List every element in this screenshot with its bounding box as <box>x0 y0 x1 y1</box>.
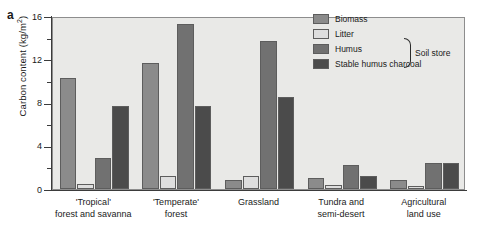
y-tick-label: 16 <box>18 13 42 22</box>
x-axis-line <box>44 190 467 191</box>
legend-swatch <box>313 14 329 24</box>
brace-icon <box>404 38 411 68</box>
y-tick-major <box>44 147 52 148</box>
y-tick-major <box>44 17 52 18</box>
legend-swatch <box>313 29 329 39</box>
bar <box>308 178 325 189</box>
bar <box>443 163 460 189</box>
category-label-line1: Agricultural <box>370 197 477 209</box>
y-tick-label: 0 <box>18 186 42 195</box>
bar <box>260 41 277 189</box>
bar <box>142 63 159 190</box>
soil-store-label: Soil store <box>415 49 450 58</box>
legend-swatch <box>313 44 329 54</box>
y-tick-label: 4 <box>18 142 42 151</box>
y-tick-major <box>44 104 52 105</box>
legend-label: Litter <box>335 30 354 39</box>
category-label-line2: forest <box>123 209 230 221</box>
bar <box>343 165 360 189</box>
y-axis-title: Carbon content (kg/m2) <box>16 0 28 146</box>
y-tick-minor <box>47 168 52 169</box>
legend-label: Biomass <box>335 15 368 24</box>
bar <box>60 78 77 189</box>
panel-label: a <box>7 9 14 21</box>
bar <box>160 176 177 189</box>
bar <box>225 180 242 189</box>
y-tick-label: 8 <box>18 99 42 108</box>
category-label-line2: land use <box>370 209 477 221</box>
legend-item: Biomass <box>313 12 421 26</box>
soil-store-bracket: Soil store <box>404 38 450 68</box>
legend-label: Humus <box>335 45 362 54</box>
bar <box>278 97 295 189</box>
legend-swatch <box>313 59 329 69</box>
bar <box>243 176 260 189</box>
bar <box>95 158 112 189</box>
category-label: Agriculturalland use <box>370 197 477 220</box>
y-tick-major <box>44 190 52 191</box>
y-tick-major <box>44 60 52 61</box>
bar <box>425 163 442 189</box>
y-tick-label: 12 <box>18 56 42 65</box>
bar <box>408 186 425 189</box>
y-tick-minor <box>47 125 52 126</box>
bar <box>177 24 194 189</box>
bar <box>112 106 129 189</box>
y-tick-minor <box>47 39 52 40</box>
bar <box>360 176 377 189</box>
y-tick-minor <box>47 82 52 83</box>
figure-panel-a: a Carbon content (kg/m2) 0481216 'Tropic… <box>0 0 483 238</box>
bar <box>325 185 342 189</box>
bar <box>195 106 212 189</box>
bar <box>77 184 94 189</box>
bar <box>390 180 407 189</box>
